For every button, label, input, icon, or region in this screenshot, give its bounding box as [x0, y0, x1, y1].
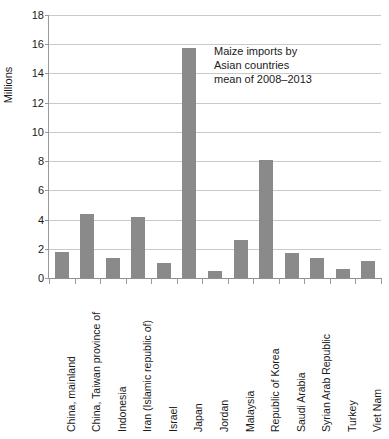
y-tick-label: 4: [16, 215, 44, 226]
y-tick-label: 12: [16, 98, 44, 109]
x-axis-label: Indonesia: [117, 386, 128, 432]
x-axis-category-labels: China, mainlandChina, Taiwan province of…: [48, 284, 380, 434]
bar: [55, 252, 69, 278]
chart-annotation-line: mean of 2008–2013: [214, 72, 312, 86]
maize-imports-bar-chart: Millions 024681012141618 China, mainland…: [0, 0, 389, 439]
bar: [310, 258, 324, 278]
bar: [106, 258, 120, 278]
x-axis-label: Saudi Arabia: [296, 372, 307, 432]
y-tick-mark: [45, 161, 49, 162]
x-axis-label: Jordan: [219, 400, 230, 432]
y-tick-mark: [45, 15, 49, 16]
y-tick-mark: [45, 190, 49, 191]
chart-annotation-line: Asian countries: [214, 58, 312, 72]
bar: [80, 214, 94, 278]
y-tick-label: 2: [16, 244, 44, 255]
y-tick-label: 8: [16, 156, 44, 167]
y-tick-label: 6: [16, 185, 44, 196]
bar: [361, 261, 375, 278]
bar: [182, 48, 196, 278]
x-axis-label: Israel: [168, 406, 179, 432]
y-tick-label: 18: [16, 10, 44, 21]
y-tick-mark: [45, 103, 49, 104]
y-tick-mark: [45, 44, 49, 45]
y-tick-label: 16: [16, 39, 44, 50]
gridline: [49, 278, 381, 279]
x-axis-label: Viet Nam: [372, 389, 383, 432]
x-axis-label: China, Taiwan province of: [91, 312, 102, 432]
y-tick-label: 10: [16, 127, 44, 138]
bar: [259, 160, 273, 278]
bar: [285, 253, 299, 278]
y-tick-mark: [45, 278, 49, 279]
x-axis-label: Japan: [193, 403, 204, 432]
bar: [157, 263, 171, 278]
x-axis-label: Republic of Korea: [270, 349, 281, 432]
y-axis-title: Millions: [2, 40, 14, 130]
chart-annotation-line: Maize imports by: [214, 44, 312, 58]
bar: [234, 240, 248, 278]
bar: [131, 217, 145, 278]
x-axis-label: Syrian Arab Republic: [321, 334, 332, 432]
y-tick-label: 14: [16, 68, 44, 79]
y-tick-mark: [45, 220, 49, 221]
y-tick-label: 0: [16, 273, 44, 284]
x-axis-label: China, mainland: [66, 356, 77, 432]
chart-annotation: Maize imports byAsian countriesmean of 2…: [214, 44, 312, 86]
bar: [336, 269, 350, 278]
y-tick-mark: [45, 132, 49, 133]
y-tick-mark: [45, 73, 49, 74]
x-axis-label: Iran (Islamic republic of): [142, 320, 153, 432]
x-axis-label: Turkey: [347, 400, 358, 432]
x-axis-label: Malaysia: [245, 391, 256, 432]
x-tick-mark: [381, 278, 382, 284]
y-tick-mark: [45, 249, 49, 250]
bar: [208, 271, 222, 278]
